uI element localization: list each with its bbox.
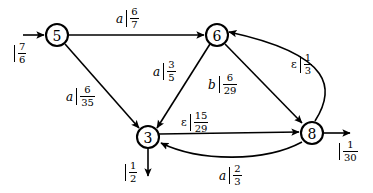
label-symbol: ε: [291, 59, 299, 70]
fraction: 2 3: [233, 164, 241, 187]
label-edge-8-3: a 2 3: [219, 164, 242, 187]
node-label-8: 8: [308, 126, 317, 142]
fraction: 6 35: [80, 85, 95, 108]
label-final-3: 1 2: [124, 161, 137, 184]
label-symbol: a: [219, 170, 228, 182]
label-bar: [229, 167, 230, 184]
label-bar: [339, 143, 340, 160]
diagram-canvas: 5 6 3 8 7 6 a 6 7 a 6 35 a 3 5: [0, 0, 373, 193]
fraction: 1 3: [304, 53, 312, 76]
fraction: 7 6: [18, 42, 26, 65]
label-final-8: 1 30: [338, 140, 358, 163]
node-label-6: 6: [213, 28, 222, 44]
label-symbol: a: [153, 66, 162, 78]
label-symbol: ε: [181, 117, 189, 128]
graph-svg: 5 6 3 8: [0, 0, 373, 193]
label-bar: [219, 76, 220, 93]
fraction: 1 2: [129, 161, 137, 184]
edge-3-8: [159, 132, 299, 134]
label-symbol: a: [66, 91, 75, 103]
label-symbol: b: [208, 79, 218, 91]
label-edge-5-6: a 6 7: [116, 7, 139, 30]
fraction: 6 7: [130, 7, 138, 30]
label-bar: [125, 164, 126, 181]
fraction: 1 30: [343, 140, 358, 163]
label-bar: [190, 114, 191, 131]
label-start-5: 7 6: [13, 42, 26, 65]
label-bar: [163, 63, 164, 80]
label-symbol: a: [116, 13, 125, 25]
label-bar: [76, 88, 77, 105]
edge-8-6: [229, 32, 325, 121]
node-label-3: 3: [144, 130, 153, 146]
edge-8-3: [161, 142, 302, 157]
node-label-5: 5: [53, 28, 62, 44]
label-edge-3-8: ε 15 29: [181, 111, 208, 134]
fraction: 15 29: [194, 111, 209, 134]
fraction: 3 5: [167, 60, 175, 83]
label-edge-8-6: ε 1 3: [291, 53, 312, 76]
fraction: 6 29: [223, 73, 238, 96]
label-bar: [14, 45, 15, 62]
label-edge-6-8: b 6 29: [208, 73, 237, 96]
label-edge-5-3: a 6 35: [66, 85, 95, 108]
label-bar: [300, 56, 301, 73]
label-edge-6-3: a 3 5: [153, 60, 176, 83]
label-bar: [126, 10, 127, 27]
